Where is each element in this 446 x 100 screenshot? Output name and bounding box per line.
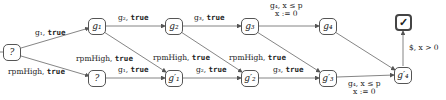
- state-unknown: ?: [88, 70, 106, 87]
- label-g3p-g4p: g₄, x ≤ px := 0: [348, 80, 381, 97]
- state-g1-prime: g′₁: [165, 70, 183, 87]
- label-start-q: rpmHigh, true: [8, 68, 65, 76]
- label-g1-g1p: rpmHigh, true: [76, 55, 133, 63]
- state-g1: g₁: [88, 18, 106, 35]
- label-g4p-accept: $, x > 0: [409, 44, 439, 52]
- state-g2-prime: g′₂: [241, 70, 259, 87]
- state-start: ?: [3, 44, 21, 61]
- state-g3: g₃: [241, 18, 259, 35]
- accept-state-check-icon: ✓: [395, 14, 412, 31]
- label-g1p-g2p: g₂, true: [196, 66, 227, 74]
- label-q-g1p: g₁, true: [118, 66, 149, 74]
- label-g3-g3p: rpmHigh, true: [229, 54, 286, 62]
- state-g4: g₄: [319, 18, 337, 35]
- label-g3-g4: g₄, x ≤ px := 0: [270, 2, 303, 19]
- label-start-g1: g₁, true: [35, 29, 66, 37]
- label-g2p-g3p: g₃, true: [273, 66, 304, 74]
- state-g2: g₂: [165, 18, 183, 35]
- state-g4-prime: g′₄: [394, 67, 412, 84]
- state-g3-prime: g′₃: [319, 70, 337, 87]
- label-g2-g2p: rpmHigh, true: [153, 54, 210, 62]
- label-g1-g2: g₂, true: [118, 14, 149, 22]
- edge-g3p-g4p: [337, 75, 394, 77]
- label-g2-g3: g₃, true: [194, 14, 225, 22]
- edge-g4-g4p: [335, 32, 395, 70]
